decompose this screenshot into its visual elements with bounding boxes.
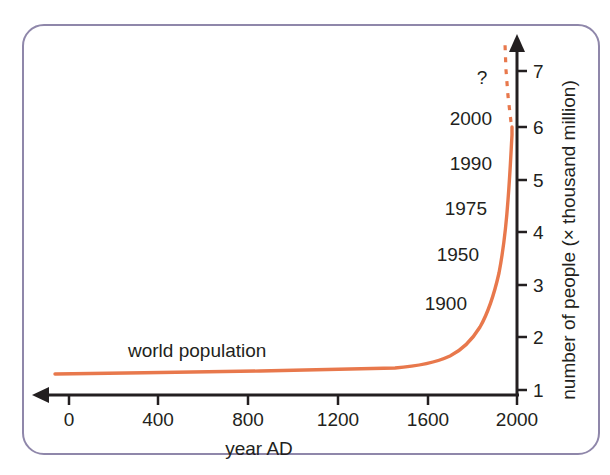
- x-axis-arrow-icon: [32, 387, 49, 403]
- annotation-1950: 1950: [437, 244, 479, 265]
- annotation-question-mark: ?: [477, 67, 488, 88]
- y-axis: 1 2 3 4 5 6 7 number of people (× thousa…: [509, 34, 579, 401]
- x-tick-label-400: 400: [142, 409, 174, 430]
- y-tick-label-7: 7: [533, 61, 544, 82]
- y-tick-label-6: 6: [533, 117, 544, 138]
- annotation-1900: 1900: [425, 293, 467, 314]
- y-tick-label-3: 3: [533, 275, 544, 296]
- annotation-2000: 2000: [450, 108, 492, 129]
- world-population-projection-curve: [505, 44, 511, 122]
- annotation-1975: 1975: [445, 198, 487, 219]
- y-tick-label-4: 4: [533, 222, 544, 243]
- x-tick-label-800: 800: [232, 409, 264, 430]
- x-tick-label-1200: 1200: [317, 409, 359, 430]
- x-tick-label-1600: 1600: [407, 409, 449, 430]
- x-axis: 0 400 800 1200 1600 2000 year AD: [32, 387, 538, 459]
- figure-root: 0 400 800 1200 1600 2000 year AD 1 2 3: [0, 0, 610, 475]
- x-tick-label-2000: 2000: [496, 409, 538, 430]
- y-tick-label-5: 5: [533, 170, 544, 191]
- x-tick-label-0: 0: [64, 409, 75, 430]
- annotation-1990: 1990: [450, 153, 492, 174]
- population-growth-chart: 0 400 800 1200 1600 2000 year AD 1 2 3: [0, 0, 610, 475]
- x-axis-title: year AD: [225, 438, 293, 459]
- y-axis-arrow-icon: [509, 34, 525, 52]
- y-axis-title: number of people (× thousand million): [558, 80, 579, 400]
- series-label-world-population: world population: [127, 340, 266, 361]
- y-tick-label-2: 2: [533, 327, 544, 348]
- y-tick-label-1: 1: [533, 380, 544, 401]
